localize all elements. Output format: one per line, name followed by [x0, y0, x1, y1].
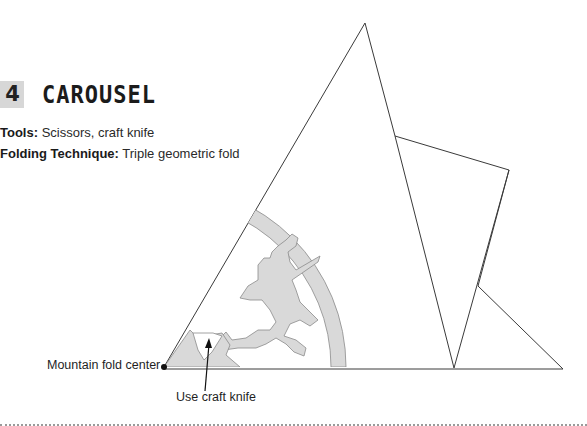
- fold-center-dot: [161, 364, 167, 370]
- paper-outline: [164, 23, 563, 369]
- mountain-fold-center-label: Mountain fold center: [47, 358, 160, 372]
- cut-pattern: [164, 185, 346, 367]
- craft-knife-label: Use craft knife: [176, 390, 256, 404]
